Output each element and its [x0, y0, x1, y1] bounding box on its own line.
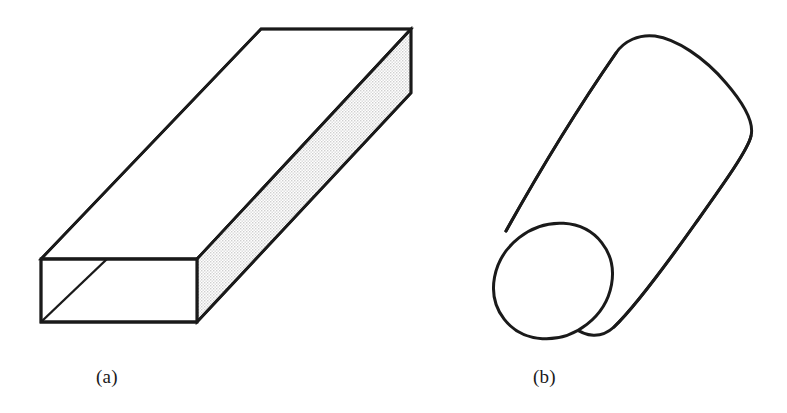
bar-front-end-face	[41, 259, 197, 322]
caption-b: (b)	[533, 366, 556, 388]
figure-illustration	[0, 0, 787, 413]
figure-container: (a) (b)	[0, 0, 787, 413]
caption-a: (a)	[96, 366, 118, 388]
